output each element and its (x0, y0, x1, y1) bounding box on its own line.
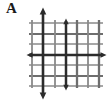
arrow-right-icon (101, 52, 107, 57)
arrow-left-icon (27, 52, 33, 57)
arrow-down-icon (40, 93, 47, 100)
figure-panel: A (0, 0, 111, 104)
arrow-up-icon (40, 8, 47, 15)
arrow-up-icon (63, 19, 68, 25)
arrow-down-icon (63, 85, 68, 91)
lattice-diagram (0, 0, 111, 104)
